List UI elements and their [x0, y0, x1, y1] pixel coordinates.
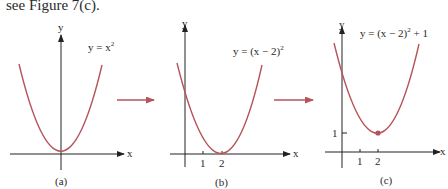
axis-label-x: x — [440, 145, 446, 157]
panel-b: y x 1 2 y = (x − 2)2 (b) — [170, 17, 299, 189]
axis-label-y: y — [339, 18, 345, 30]
tick-label-x-2: 2 — [375, 155, 381, 167]
axis-label-y: y — [58, 21, 64, 33]
tick-label-x-1: 1 — [357, 155, 363, 167]
equation-label: y = (x − 2)2 + 1 — [360, 26, 428, 40]
tick-label-x-2: 2 — [219, 157, 225, 169]
axis-label-x: x — [127, 147, 133, 159]
panel-caption: (b) — [215, 176, 228, 189]
parabola-curve — [334, 43, 419, 133]
panel-a: y x y = x2 (a) — [10, 21, 133, 188]
panel-caption: (a) — [55, 175, 68, 188]
axis-label-x: x — [293, 147, 299, 159]
tick-label-y-1: 1 — [332, 127, 338, 139]
axis-label-y: y — [182, 17, 188, 29]
equation-label: y = (x − 2)2 — [233, 44, 284, 58]
figure: y x y = x2 (a) y x 1 2 y = (x − 2)2 (b) … — [0, 0, 448, 189]
tick-label-x-1: 1 — [200, 157, 206, 169]
vertex-point — [375, 130, 380, 135]
panel-caption: (c) — [380, 174, 393, 187]
panel-c: y x 1 2 1 y = (x − 2)2 + 1 (c) — [325, 18, 446, 187]
parabola-curve — [177, 63, 262, 154]
equation-label: y = x2 — [88, 40, 115, 53]
